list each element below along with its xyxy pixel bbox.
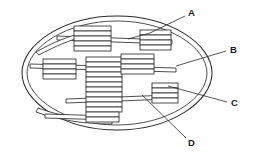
granum-mid-right [121,54,154,74]
granum-center [86,57,122,112]
granum-lower-right [152,83,178,103]
granum-top-right [140,30,171,50]
label-d: D [188,137,195,148]
chloroplast-diagram: A B C D [0,0,254,158]
granum-left [43,59,76,79]
label-a: A [188,7,195,18]
label-b: B [230,44,237,55]
leader-line-b [176,51,226,66]
diagram-canvas: A B C D [0,0,254,158]
granum-bottom-center [86,112,119,122]
label-c: C [231,97,238,108]
granum-top-center [74,26,111,51]
